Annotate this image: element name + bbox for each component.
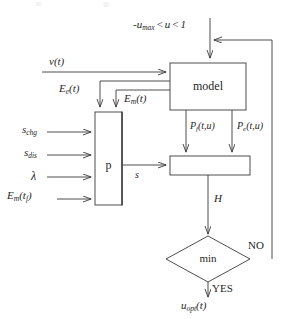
e-elec-sub: e — [66, 87, 69, 96]
block-diagram-figure: -umax<u<1 v(t) Ee(t) Em(t) schg sdis λ E… — [0, 0, 292, 319]
p-e-sub: e — [243, 125, 246, 132]
p-e-label: Pe(t,u) — [237, 121, 263, 131]
e-mech-tf-base: E — [7, 189, 14, 201]
s-chg-sub: chg — [26, 128, 37, 137]
e-elec-label: Ee(t) — [59, 83, 79, 94]
constraint-var-sub: max — [142, 23, 154, 32]
no-branch-label: NO — [248, 240, 264, 251]
p-f-sub: f — [196, 125, 198, 132]
e-mech-tf-arg-open: (t — [19, 189, 26, 201]
s-signal-label: s — [135, 170, 139, 180]
u-opt-sub: opt — [187, 304, 197, 313]
e-mech-label: Em(t) — [124, 93, 147, 104]
e-mech-tf-arg-sub: f — [26, 194, 28, 203]
e-mech-tf-label: Em(tf) — [7, 190, 32, 201]
e-mech-tf-sub: m — [14, 194, 19, 203]
model-block-label: model — [170, 80, 246, 92]
p-block-label: p — [95, 159, 122, 171]
e-elec-base: E — [59, 82, 66, 94]
velocity-label: v(t) — [49, 56, 64, 67]
e-elec-arg: (t) — [69, 82, 79, 94]
p-e-arg: (t,u) — [246, 120, 263, 131]
p-f-label: Pf(t,u) — [190, 121, 215, 131]
p-f-arg: (t,u) — [198, 120, 215, 131]
constraint-rel1: < — [155, 18, 165, 30]
velocity-arg: (t) — [54, 55, 64, 67]
yes-branch-label: YES — [212, 283, 233, 294]
constraint-rel2: < — [170, 18, 180, 30]
diagram-canvas — [0, 0, 292, 319]
u-opt-label: uopt(t) — [181, 300, 206, 311]
lambda-label: λ — [31, 170, 36, 182]
e-mech-sub: m — [131, 97, 136, 106]
e-mech-base: E — [124, 92, 131, 104]
e-mech-arg: (t) — [136, 92, 146, 104]
e-mech-tf-arg-close: ) — [28, 189, 32, 201]
h-signal-label: H — [214, 193, 222, 204]
sum-block[interactable] — [170, 156, 250, 175]
s-dis-sub: dis — [28, 151, 37, 160]
min-label: min — [183, 253, 233, 264]
s-chg-label: schg — [22, 124, 37, 135]
lambda-glyph: λ — [31, 169, 36, 183]
u-opt-arg: (t) — [196, 299, 206, 311]
constraint-label: -umax<u<1 — [133, 19, 186, 30]
u-opt-base: u — [181, 299, 187, 311]
s-dis-label: sdis — [24, 147, 37, 158]
constraint-upper: 1 — [181, 18, 187, 30]
